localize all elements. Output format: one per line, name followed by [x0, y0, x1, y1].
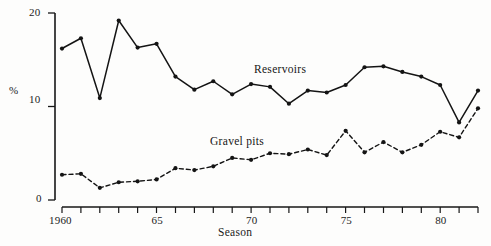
- series-markers-gravel-pits: [60, 106, 480, 190]
- data-point: [344, 83, 348, 87]
- data-point: [211, 164, 215, 168]
- data-point: [136, 45, 140, 49]
- data-point: [362, 150, 366, 154]
- series-annotation-reservoirs: Reservoirs: [254, 63, 306, 75]
- y-axis-ticks: [48, 13, 55, 200]
- data-point: [98, 186, 102, 190]
- data-point: [60, 173, 64, 177]
- x-axis-label: Season: [218, 226, 252, 238]
- x-tick-label-1975: 75: [341, 214, 352, 226]
- chart-plot-area: [0, 0, 491, 246]
- data-point: [400, 150, 404, 154]
- data-point: [476, 106, 480, 110]
- data-point: [400, 70, 404, 74]
- data-point: [287, 152, 291, 156]
- data-point: [306, 89, 310, 93]
- data-point: [438, 130, 442, 134]
- data-point: [230, 92, 234, 96]
- data-point: [268, 85, 272, 89]
- data-point: [211, 79, 215, 83]
- y-tick-label-20: 20: [29, 6, 40, 18]
- data-point: [362, 65, 366, 69]
- data-point: [325, 153, 329, 157]
- data-point: [249, 82, 253, 86]
- data-point: [268, 151, 272, 155]
- chart-container: Reservoirs Gravel pits % Season 20 10 0 …: [0, 0, 491, 246]
- y-axis-label: %: [9, 84, 18, 96]
- data-point: [306, 147, 310, 151]
- data-point: [457, 120, 461, 124]
- data-point: [287, 102, 291, 106]
- data-point: [381, 64, 385, 68]
- data-point: [154, 177, 158, 181]
- data-point: [117, 180, 121, 184]
- series-line-gravel-pits: [62, 108, 478, 187]
- data-point: [325, 90, 329, 94]
- data-point: [249, 158, 253, 162]
- data-point: [154, 42, 158, 46]
- x-tick-label-1965: 65: [152, 214, 163, 226]
- data-point: [173, 166, 177, 170]
- data-point: [419, 143, 423, 147]
- y-tick-label-10: 10: [29, 93, 40, 105]
- data-point: [136, 179, 140, 183]
- y-tick-label-0: 0: [36, 192, 42, 204]
- data-point: [79, 36, 83, 40]
- series-annotation-gravel-pits: Gravel pits: [210, 135, 264, 147]
- data-point: [192, 88, 196, 92]
- data-point: [117, 18, 121, 22]
- data-point: [173, 74, 177, 78]
- data-point: [192, 168, 196, 172]
- data-point: [476, 89, 480, 93]
- data-point: [457, 135, 461, 139]
- data-point: [419, 74, 423, 78]
- x-tick-label-1970: 70: [246, 214, 257, 226]
- data-point: [344, 129, 348, 133]
- x-tick-label-1980: 80: [435, 214, 446, 226]
- data-point: [98, 96, 102, 100]
- data-point: [79, 172, 83, 176]
- data-point: [438, 83, 442, 87]
- data-point: [60, 46, 64, 50]
- data-point: [230, 156, 234, 160]
- x-axis-ticks: [62, 207, 478, 213]
- x-tick-label-1960: 1960: [49, 214, 72, 226]
- data-point: [381, 140, 385, 144]
